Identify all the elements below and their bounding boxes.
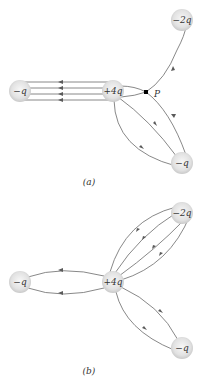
- panel-label-a: (a): [83, 177, 96, 187]
- field-lines-center-to-left-b: [28, 268, 104, 295]
- charge-label: −2q: [172, 15, 191, 25]
- charge-label: +4q: [103, 277, 122, 287]
- panel-a: −q +4q −2q −q P (a): [9, 9, 193, 187]
- charge-label: −q: [175, 158, 189, 168]
- arrow-left-icon: [58, 80, 63, 84]
- panel-b: −q +4q −2q −q (b): [9, 202, 193, 376]
- charge-label: −q: [13, 86, 27, 96]
- arrow-left-icon: [58, 291, 63, 295]
- arrow-left-icon: [58, 92, 63, 96]
- arrow-down-icon: [158, 309, 163, 313]
- field-lines-center-to-bottom-right: [114, 97, 177, 166]
- charge-center-a: +4q: [102, 80, 124, 102]
- arrow-left-icon: [58, 268, 63, 272]
- charge-top-right-a: −2q: [171, 9, 193, 31]
- arrow-left-icon: [58, 86, 63, 90]
- point-label: P: [153, 89, 161, 99]
- electric-field-diagram: −q +4q −2q −q P (a): [0, 0, 202, 385]
- charge-center-b: +4q: [102, 271, 124, 293]
- panel-label-b: (b): [83, 366, 96, 376]
- charge-label: +4q: [103, 86, 122, 96]
- charge-left-a: −q: [9, 80, 31, 102]
- field-lines-center-to-bottom-right-b: [116, 287, 178, 350]
- arrow-up-icon: [159, 252, 163, 256]
- charge-label: −q: [175, 343, 189, 353]
- arrow-down-icon: [142, 326, 147, 330]
- arrow-up-icon: [171, 66, 175, 71]
- arrow-down-icon: [153, 121, 157, 126]
- arrow-up-icon: [136, 228, 140, 232]
- charge-label: −2q: [172, 208, 191, 218]
- field-lines-through-p: [120, 26, 186, 155]
- field-lines-center-to-left: [24, 80, 108, 102]
- charge-left-b: −q: [9, 271, 31, 293]
- charge-bottom-right-a: −q: [171, 152, 193, 174]
- charge-label: −q: [13, 277, 27, 287]
- arrow-left-icon: [58, 98, 63, 102]
- arrow-down-icon: [171, 114, 176, 118]
- arrow-down-icon: [139, 145, 144, 149]
- charge-top-right-b: −2q: [171, 202, 193, 224]
- charge-bottom-right-b: −q: [171, 337, 193, 359]
